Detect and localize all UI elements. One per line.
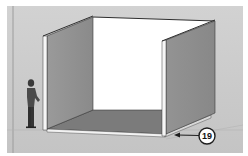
- left-wall[interactable]: [43, 16, 93, 130]
- model-viewport[interactable]: 19: [0, 0, 248, 156]
- callout-number: 19: [199, 129, 215, 143]
